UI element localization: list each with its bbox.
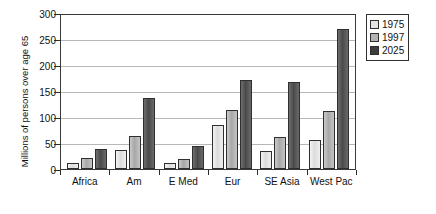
x-tick-mark [356, 170, 357, 175]
bar [67, 163, 79, 169]
bar-group [63, 15, 111, 169]
bar-group [111, 15, 159, 169]
bar-chart: Millions of persons over age 65 05010015… [0, 0, 436, 214]
legend-swatch-icon [370, 46, 379, 55]
plot-area [60, 14, 356, 170]
bar [95, 149, 107, 169]
bar [143, 98, 155, 169]
y-axis-tick-labels: 050100150200250300 [22, 14, 56, 170]
x-axis-tick-labels: AfricaAmE MedEurSE AsiaWest Pac [60, 176, 356, 187]
bar [337, 29, 349, 169]
bar-group [208, 15, 256, 169]
x-tick-mark [208, 170, 209, 175]
x-tick-label: West Pac [307, 176, 356, 187]
bar [81, 158, 93, 169]
x-tick-mark [109, 170, 110, 175]
bar [212, 125, 224, 169]
legend-swatch-icon [370, 20, 379, 29]
x-tick-mark [257, 170, 258, 175]
bar [129, 136, 141, 169]
bar-group [256, 15, 304, 169]
legend-swatch-icon [370, 33, 379, 42]
x-tick-label: Africa [60, 176, 109, 187]
legend-label: 1997 [382, 32, 404, 43]
x-axis-tick-marks [60, 170, 356, 175]
legend: 197519972025 [366, 14, 409, 61]
x-tick-mark [159, 170, 160, 175]
x-tick-mark [307, 170, 308, 175]
legend-item[interactable]: 1975 [370, 18, 404, 31]
bar [164, 163, 176, 169]
legend-item[interactable]: 1997 [370, 31, 404, 44]
x-tick-mark [60, 170, 61, 175]
bar [178, 159, 190, 169]
bar [115, 150, 127, 169]
x-tick-label: E Med [159, 176, 208, 187]
legend-item[interactable]: 2025 [370, 44, 404, 57]
x-tick-label: Am [109, 176, 158, 187]
bar [288, 82, 300, 169]
bar-group [305, 15, 353, 169]
bar [240, 80, 252, 169]
x-tick-label: Eur [208, 176, 257, 187]
bar-group [160, 15, 208, 169]
bar [226, 110, 238, 169]
bar [323, 111, 335, 169]
bar [192, 146, 204, 169]
bar [274, 137, 286, 169]
legend-label: 1975 [382, 19, 404, 30]
bar-groups [61, 15, 355, 169]
legend-label: 2025 [382, 45, 404, 56]
x-tick-label: SE Asia [257, 176, 306, 187]
bar [260, 151, 272, 169]
bar [309, 140, 321, 169]
